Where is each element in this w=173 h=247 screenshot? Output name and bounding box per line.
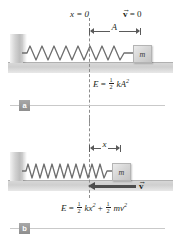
equation-term-body-a: kA (116, 79, 126, 89)
vector-arrow-icon-b: → (139, 177, 147, 186)
caption-a: a (10, 100, 165, 111)
caption-rule-left-b (10, 228, 19, 229)
panel-a: m x = 0 →v = 0 A E = 1 2 kA2 (0, 0, 173, 123)
amplitude-label-a: A (110, 22, 119, 32)
equation-term2-body-b: mv (113, 203, 124, 213)
energy-equation-a: E = 1 2 kA2 (93, 77, 129, 91)
equation-fraction-a: 1 2 (109, 77, 114, 91)
energy-equation-b: E = 1 2 kx2 + 1 2 mv2 (61, 201, 127, 215)
fraction1-denominator-b: 2 (77, 207, 82, 214)
fraction2-denominator-b: 2 (106, 207, 111, 214)
origin-label-a: x = 0 (70, 9, 89, 19)
physics-figure: m x = 0 →v = 0 A E = 1 2 kA2 (0, 0, 173, 247)
displacement-dimension-b: x (89, 145, 121, 152)
velocity-vector-symbol-b: →v (139, 181, 144, 191)
fraction-denominator-a: 2 (109, 83, 114, 90)
block-a: m (133, 45, 152, 63)
equation-fraction1-b: 1 2 (77, 201, 82, 215)
displacement-label-b: x (101, 139, 108, 149)
block-label-a: m (140, 50, 146, 59)
velocity-arrow-b (88, 182, 136, 191)
panel-badge-a: a (19, 100, 30, 111)
dimension-arrowhead-left-icon-a (90, 28, 94, 34)
dimension-arrowhead-right-icon-b (116, 145, 120, 151)
ground-line-b (8, 180, 173, 181)
caption-rule-right-b (30, 228, 165, 229)
panel-badge-b: b (19, 223, 30, 234)
velocity-arrow-shaft-b (94, 185, 136, 188)
block-label-b: m (119, 168, 125, 177)
dimension-tick-right-a (140, 28, 141, 35)
velocity-value-a: = 0 (130, 9, 142, 19)
equation-term1-exponent-b: 2 (92, 202, 95, 208)
equation-lhs-a: E (93, 79, 99, 89)
equation-lhs-b: E (61, 203, 67, 213)
equation-equals-a: = (101, 79, 106, 89)
panel-b: m x →v E = 1 2 kx2 (0, 123, 173, 247)
amplitude-dimension-a: A (89, 28, 141, 35)
velocity-label-b: →v (139, 181, 144, 191)
vector-arrow-icon-a: → (123, 5, 131, 14)
dimension-arrowhead-left-icon-b (90, 145, 94, 151)
equation-term2-exponent-b: 2 (124, 202, 127, 208)
dimension-tick-right-b (120, 145, 121, 152)
equation-plus-b: + (98, 203, 103, 213)
velocity-vector-symbol-a: →v (123, 9, 128, 19)
equation-fraction2-b: 1 2 (106, 201, 111, 215)
caption-rule-left-a (10, 105, 19, 106)
velocity-label-a: →v = 0 (123, 9, 142, 19)
dimension-arrowhead-right-icon-a (136, 28, 140, 34)
caption-b: b (10, 223, 165, 234)
spring-a (22, 44, 134, 62)
equation-equals-b: = (69, 203, 74, 213)
equation-term-exponent-a: 2 (126, 78, 129, 84)
ground-surface-a (8, 62, 173, 73)
spring-b (22, 162, 114, 180)
caption-rule-right-a (30, 105, 165, 106)
block-b: m (112, 163, 131, 181)
